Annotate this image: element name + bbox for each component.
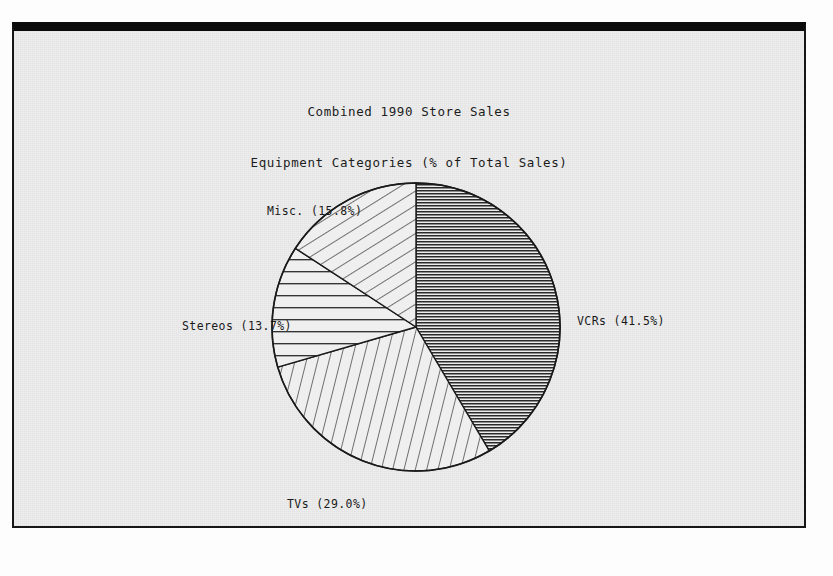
pie-slice-group	[272, 183, 560, 471]
pie-label-stereos: Stereos (13.7%)	[182, 319, 292, 333]
chart-frame: Combined 1990 Store Sales Equipment Cate…	[12, 22, 806, 528]
scanned-page: Combined 1990 Store Sales Equipment Cate…	[0, 0, 833, 576]
pie-chart	[14, 31, 808, 528]
pie-label-misc: Misc. (15.8%)	[267, 204, 362, 218]
pie-label-vcrs: VCRs (41.5%)	[577, 314, 665, 328]
pie-chart-svg	[14, 31, 808, 528]
pie-label-tvs: TVs (29.0%)	[287, 497, 368, 511]
